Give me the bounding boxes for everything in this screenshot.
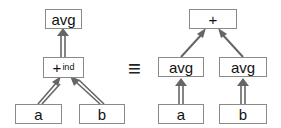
edge-avg1-to-plus <box>181 34 202 57</box>
node-label: avg <box>51 12 75 27</box>
edge-b-to-op <box>76 80 104 104</box>
node-label: a <box>177 107 185 122</box>
edge-op-to-avg <box>61 34 65 58</box>
left-op-plus-ind-node: +ind <box>43 57 84 78</box>
node-label: b <box>98 107 106 122</box>
equivalence-symbol: ≡ <box>128 58 141 80</box>
right-leaf-b-node: b <box>219 104 267 124</box>
node-label: + <box>209 12 218 27</box>
node-subscript: ind <box>62 63 74 72</box>
node-label: + <box>53 60 62 75</box>
edge-a-to-avg1 <box>179 84 183 104</box>
node-label: avg <box>169 60 193 75</box>
right-mid-avg-node-2: avg <box>219 57 267 77</box>
right-mid-avg-node-1: avg <box>158 57 204 77</box>
right-root-plus-node: + <box>189 9 237 29</box>
edge-avg2-to-plus <box>222 34 243 57</box>
left-root-avg-node: avg <box>45 9 82 29</box>
node-label: a <box>34 107 42 122</box>
right-leaf-a-node: a <box>158 104 204 124</box>
left-leaf-a-node: a <box>15 104 62 124</box>
node-label: b <box>239 107 247 122</box>
edge-a-to-op <box>38 82 60 104</box>
edge-b-to-avg2 <box>241 84 245 104</box>
left-leaf-b-node: b <box>79 104 125 124</box>
node-label: avg <box>231 60 255 75</box>
